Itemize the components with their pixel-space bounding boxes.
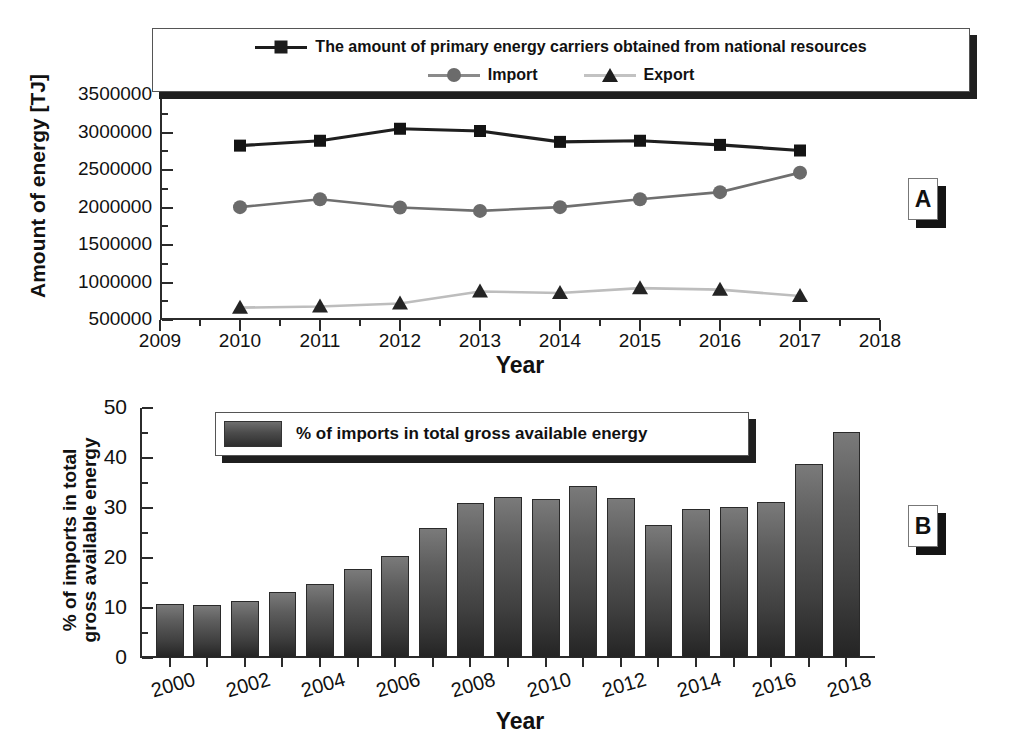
- panel-a-plot-area: [160, 95, 880, 320]
- panel-b-y-tick-mark: [142, 557, 153, 559]
- panel-a-x-tick-mark: [319, 320, 321, 331]
- legend-row-import-export[interactable]: Import Export: [163, 61, 959, 89]
- legend-key-circle-icon: [428, 67, 480, 83]
- panel-a-x-tick-2016: 2016: [675, 330, 765, 352]
- panel-a-y-minor-tick: [162, 300, 168, 302]
- bar-2003[interactable]: [269, 592, 297, 659]
- panel-a-y-tick-mark: [162, 132, 173, 134]
- panel-a-x-tick-mark: [559, 320, 561, 331]
- panel-a-marker[interactable]: [314, 135, 326, 147]
- panel-a-x-tick-2012: 2012: [355, 330, 445, 352]
- panel-a-y-minor-tick: [162, 188, 168, 190]
- panel-a-x-tick-2015: 2015: [595, 330, 685, 352]
- bar-2006[interactable]: [381, 556, 409, 658]
- panel-a-x-minor-tick: [519, 320, 521, 326]
- panel-a-x-tick-mark: [479, 320, 481, 331]
- panel-a-x-tick-2013: 2013: [435, 330, 525, 352]
- panel-b-y-minor-tick: [142, 632, 148, 634]
- panel-a-marker[interactable]: [554, 136, 566, 148]
- panel-a-x-minor-tick: [199, 320, 201, 326]
- legend-label-imports-share: % of imports in total gross available en…: [296, 424, 647, 444]
- panel-tag-b: B: [908, 505, 938, 547]
- bar-2004[interactable]: [306, 584, 334, 658]
- panel-a-y-minor-tick: [162, 150, 168, 152]
- panel-a-x-minor-tick: [599, 320, 601, 326]
- bar-2013[interactable]: [645, 525, 673, 659]
- panel-a-y-tick-mark: [162, 94, 173, 96]
- panel-a-marker[interactable]: [393, 201, 407, 215]
- panel-a-marker[interactable]: [394, 123, 406, 135]
- panel-b-x-tick-mark: [770, 658, 772, 667]
- panel-a-x-tick-mark: [239, 320, 241, 331]
- legend-row-imports-share[interactable]: % of imports in total gross available en…: [224, 413, 740, 455]
- panel-a-marker[interactable]: [713, 185, 727, 199]
- bar-2018[interactable]: [833, 432, 861, 659]
- bar-2017[interactable]: [795, 464, 823, 658]
- panel-b-bar-chart: % of imports in totalgross available ene…: [0, 390, 1013, 755]
- panel-a-x-tick-mark: [159, 320, 161, 331]
- panel-a-marker[interactable]: [794, 145, 806, 157]
- panel-a-x-tick-mark: [719, 320, 721, 331]
- panel-a-x-minor-tick: [439, 320, 441, 326]
- panel-a-x-tick-2018: 2018: [835, 330, 925, 352]
- legend-item-import[interactable]: Import: [428, 66, 538, 84]
- panel-a-y-minor-tick: [162, 225, 168, 227]
- legend-item-export[interactable]: Export: [584, 66, 695, 84]
- panel-a-marker[interactable]: [313, 192, 327, 206]
- panel-b-y-tick-10: 10: [75, 595, 127, 619]
- panel-a-x-tick-2014: 2014: [515, 330, 605, 352]
- legend-row-national-resources[interactable]: The amount of primary energy carriers ob…: [163, 33, 959, 61]
- panel-b-x-tick-mark: [657, 658, 659, 667]
- bar-2008[interactable]: [457, 503, 485, 659]
- bar-2014[interactable]: [682, 509, 710, 658]
- panel-a-y-minor-tick: [162, 113, 168, 115]
- panel-b-x-tick-mark: [169, 658, 171, 667]
- panel-a-x-tick-2009: 2009: [115, 330, 205, 352]
- panel-a-x-minor-tick: [679, 320, 681, 326]
- panel-a-x-tick-mark: [399, 320, 401, 331]
- panel-a-marker[interactable]: [234, 140, 246, 152]
- panel-a-marker[interactable]: [714, 139, 726, 151]
- panel-a-x-tick-mark: [639, 320, 641, 331]
- panel-a-marker[interactable]: [553, 200, 567, 214]
- panel-a-y-tick-2000000: 2000000: [30, 196, 152, 218]
- bar-2002[interactable]: [231, 601, 259, 659]
- panel-b-x-tick-mark: [469, 658, 471, 667]
- panel-a-marker[interactable]: [633, 192, 647, 206]
- panel-b-y-tick-mark: [142, 457, 153, 459]
- legend-label-import: Import: [488, 66, 538, 84]
- panel-a-line-chart: Amount of energy [TJ] 500000100000015000…: [0, 0, 1013, 390]
- bar-2007[interactable]: [419, 528, 447, 658]
- panel-b-y-tick-mark: [142, 657, 153, 659]
- bar-2011[interactable]: [569, 486, 597, 658]
- bar-2015[interactable]: [720, 507, 748, 659]
- bar-2016[interactable]: [757, 502, 785, 659]
- panel-tag-a: A: [908, 178, 938, 220]
- panel-b-x-tick-mark: [507, 658, 509, 667]
- panel-a-y-tick-1000000: 1000000: [30, 271, 152, 293]
- panel-a-marker[interactable]: [634, 135, 646, 147]
- panel-a-marker[interactable]: [793, 166, 807, 180]
- panel-b-y-minor-tick: [142, 582, 148, 584]
- panel-b-y-tick-mark: [142, 407, 153, 409]
- panel-a-series-layer: [160, 95, 880, 320]
- bar-2005[interactable]: [344, 569, 372, 659]
- bar-2012[interactable]: [607, 498, 635, 659]
- panel-a-marker[interactable]: [233, 200, 247, 214]
- panel-a-y-tick-3000000: 3000000: [30, 121, 152, 143]
- figure-root: Amount of energy [TJ] 500000100000015000…: [0, 0, 1013, 755]
- panel-a-y-tick-mark: [162, 169, 173, 171]
- bar-2010[interactable]: [532, 499, 560, 659]
- panel-a-marker[interactable]: [473, 204, 487, 218]
- panel-a-y-minor-tick: [162, 263, 168, 265]
- panel-a-y-tick-2500000: 2500000: [30, 158, 152, 180]
- panel-b-x-tick-mark: [695, 658, 697, 667]
- bar-2001[interactable]: [193, 605, 221, 658]
- panel-b-y-minor-tick: [142, 532, 148, 534]
- panel-b-x-tick-2018: 2018: [803, 662, 896, 709]
- panel-a-y-tick-mark: [162, 282, 173, 284]
- bar-2009[interactable]: [494, 497, 522, 659]
- panel-a-marker[interactable]: [474, 125, 486, 137]
- bar-2000[interactable]: [156, 604, 184, 659]
- panel-b-x-tick-mark: [244, 658, 246, 667]
